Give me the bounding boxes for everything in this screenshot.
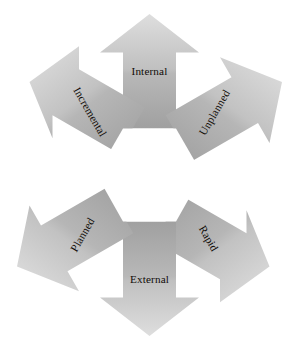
diagram-canvas: Internal Unplanned Rapid External Planne…	[0, 0, 298, 349]
arrow-external-label: External	[130, 273, 169, 285]
radial-arrow-diagram: Internal Unplanned Rapid External Planne…	[0, 0, 298, 349]
arrow-internal-label: Internal	[132, 65, 168, 77]
